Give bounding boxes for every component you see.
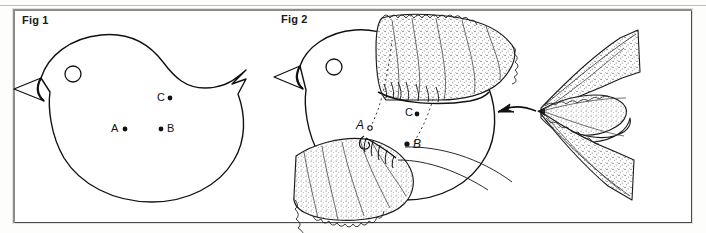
detail-arrow — [498, 104, 536, 112]
fig1-marker-b-dot — [159, 127, 164, 132]
fig2-marker-a-dot — [368, 126, 372, 130]
fig2-marker-c-label: C — [405, 106, 413, 118]
fig1-marker-b-label: B — [167, 122, 174, 134]
fig1-marker-c-label: C — [157, 91, 165, 103]
fig2-marker-c-dot — [415, 112, 420, 117]
fig2-marker-b-dot — [404, 141, 409, 146]
diagram-artwork — [0, 0, 706, 233]
fig2-marker-b-label: B — [413, 137, 421, 151]
fig2-lower-lace-wing — [294, 138, 414, 233]
fig1-artwork — [14, 35, 246, 202]
fig1-marker-a-dot — [123, 127, 128, 132]
fig2-eye-icon — [326, 59, 342, 75]
diagram-page: Fig 1 Fig 2 — [0, 0, 706, 233]
fig1-bird-body — [41, 35, 246, 202]
fig2-artwork — [274, 14, 518, 233]
gathered-ribbon-detail — [537, 30, 640, 200]
fig1-marker-a-label: A — [111, 122, 118, 134]
fig1-eye-icon — [65, 66, 81, 82]
fig1-marker-c-dot — [168, 96, 173, 101]
fig2-upper-lace-wing — [376, 14, 518, 103]
fig2-marker-a-label: A — [356, 118, 364, 132]
